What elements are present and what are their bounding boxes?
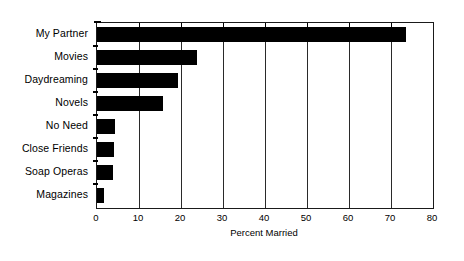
plot-area: [96, 22, 434, 209]
bar-my-partner: [97, 27, 406, 42]
y-tick-7: [93, 183, 98, 185]
y-axis-label-close-friends: Close Friends: [22, 141, 88, 156]
x-tick-label-10: 10: [125, 212, 151, 223]
y-axis-label-no-need: No Need: [46, 118, 88, 133]
x-tick-label-20: 20: [167, 212, 193, 223]
x-tick-label-60: 60: [335, 212, 361, 223]
y-axis-category-labels: My Partner Movies Daydreaming Novels No …: [0, 22, 92, 207]
bar-no-need: [97, 119, 115, 134]
bar-soap-operas: [97, 165, 113, 180]
gridline-70: [391, 23, 392, 208]
y-axis-label-novels: Novels: [55, 95, 88, 110]
bar-daydreaming: [97, 73, 178, 88]
bar-novels: [97, 96, 163, 111]
axis-corner-tick-top: [94, 21, 101, 23]
bar-close-friends: [97, 142, 114, 157]
y-tick-4: [93, 114, 98, 116]
y-tick-2: [93, 68, 98, 70]
x-tick-label-0: 0: [83, 212, 109, 223]
x-tick-label-40: 40: [251, 212, 277, 223]
x-tick-label-80: 80: [419, 212, 445, 223]
gridline-40: [265, 23, 266, 208]
y-tick-5: [93, 137, 98, 139]
y-tick-1: [93, 45, 98, 47]
x-tick-label-50: 50: [293, 212, 319, 223]
y-axis-label-daydreaming: Daydreaming: [24, 72, 88, 87]
y-tick-3: [93, 91, 98, 93]
y-tick-6: [93, 160, 98, 162]
y-axis-label-soap-operas: Soap Operas: [25, 164, 88, 179]
bar-chart: My Partner Movies Daydreaming Novels No …: [0, 0, 464, 261]
gridline-30: [223, 23, 224, 208]
x-tick-label-30: 30: [209, 212, 235, 223]
y-axis-label-magazines: Magazines: [36, 187, 88, 202]
bar-magazines: [97, 188, 104, 203]
x-axis-title-text: Percent Married: [230, 227, 298, 238]
bar-movies: [97, 50, 197, 65]
gridline-60: [349, 23, 350, 208]
x-axis-title: Percent Married: [0, 227, 464, 238]
y-axis-label-movies: Movies: [54, 49, 88, 64]
gridline-50: [307, 23, 308, 208]
y-axis-label-my-partner: My Partner: [36, 26, 88, 41]
x-tick-label-70: 70: [377, 212, 403, 223]
